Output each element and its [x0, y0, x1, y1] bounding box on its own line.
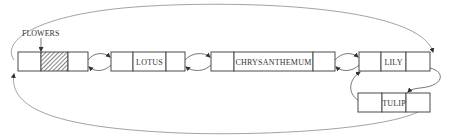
prev-cell: [111, 52, 133, 71]
prev-link-lotus-head: [89, 65, 111, 71]
hatched-data-cell: [41, 52, 68, 71]
next-cell: [406, 52, 430, 71]
next-cell: [406, 93, 430, 112]
prev-link-lily-chrysanthemum: [336, 65, 359, 71]
node-label: LOTUS: [136, 58, 163, 67]
next-cell: [68, 52, 88, 71]
list-node-head: [18, 52, 88, 71]
next-link-head-lotus: [88, 54, 110, 60]
prev-cell: [358, 93, 382, 112]
next-link-lotus-chrysanthemum: [185, 54, 210, 60]
node-label: CHRYSANTHEMUM: [236, 58, 312, 67]
list-node-lily: LILY: [359, 52, 430, 71]
next-link-lily-tulip: [408, 68, 440, 92]
list-node-tulip: TULIP: [358, 93, 430, 112]
prev-cell: [211, 52, 234, 71]
head-pointer: FLOWERS: [22, 29, 59, 51]
prev-link-chrysanthemum-lotus: [186, 65, 211, 71]
node-label: LILY: [384, 58, 402, 67]
list-node-chrysanthemum: CHRYSANTHEMUM: [211, 52, 335, 71]
prev-cell: [18, 52, 41, 71]
prev-cell: [359, 52, 381, 71]
list-node-lotus: LOTUS: [111, 52, 185, 71]
linked-list-diagram: FLOWERS LOTUS CHRYSANTHEMUM LILY TULIP: [0, 0, 449, 139]
node-label: TULIP: [382, 99, 406, 108]
next-link-chrysanthemum-lily: [335, 54, 358, 60]
next-cell: [313, 52, 335, 71]
next-cell: [166, 52, 185, 71]
circular-bottom-arc: [14, 74, 418, 134]
head-label: FLOWERS: [22, 29, 59, 38]
